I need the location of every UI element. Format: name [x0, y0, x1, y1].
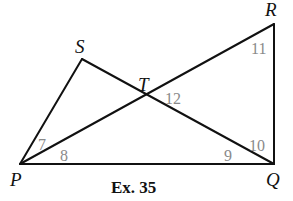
angle-label-9: 9: [224, 147, 232, 164]
geometry-diagram: S T R P Q 7 8 9 10 11 12 Ex. 35: [0, 0, 293, 201]
vertex-label-s: S: [75, 36, 85, 57]
segment-sq: [82, 59, 274, 164]
angle-label-8: 8: [60, 147, 68, 164]
angle-label-7: 7: [38, 136, 46, 153]
segment-ps: [20, 59, 82, 164]
vertex-label-p: P: [9, 169, 22, 190]
angle-label-10: 10: [249, 137, 265, 154]
figure-caption: Ex. 35: [111, 178, 156, 197]
angle-label-12: 12: [165, 90, 181, 107]
vertex-label-t: T: [138, 74, 150, 95]
vertex-label-r: R: [264, 0, 277, 20]
vertex-label-q: Q: [266, 169, 280, 190]
angle-label-11: 11: [251, 40, 266, 57]
